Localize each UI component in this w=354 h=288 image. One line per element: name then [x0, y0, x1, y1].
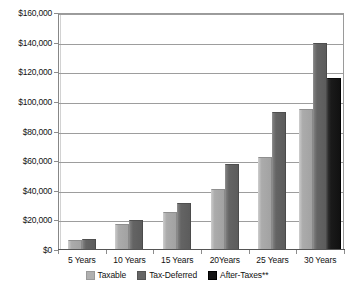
bar-taxable	[258, 157, 272, 250]
legend-swatch-icon	[208, 271, 217, 280]
bar-group	[201, 13, 249, 250]
bar-taxable	[299, 109, 313, 250]
legend-label: Taxable	[98, 270, 127, 280]
y-axis-tick-label: $60,000	[23, 157, 52, 166]
legend-entry[interactable]: After-Taxes**	[208, 270, 268, 280]
y-axis: $0$20,000$40,000$60,000$80,000$100,000$1…	[0, 0, 56, 288]
x-axis-tick-mark	[153, 250, 154, 254]
legend-swatch-icon	[137, 271, 146, 280]
y-axis-tick-label: $160,000	[18, 9, 52, 18]
y-axis-tick-label: $100,000	[18, 97, 52, 106]
bar-taxable	[115, 224, 129, 250]
chart-legend: TaxableTax-DeferredAfter-Taxes**	[0, 268, 354, 282]
x-axis-tick-label: 15 Years	[161, 255, 193, 266]
y-axis-tick-label: $20,000	[23, 216, 52, 225]
y-axis-tick-label: $80,000	[23, 127, 52, 136]
bar-group	[106, 13, 154, 250]
bar-tax-deferred	[313, 43, 327, 250]
bars-layer	[58, 13, 344, 250]
bar-taxable	[211, 189, 225, 250]
x-axis-tick-mark	[58, 250, 59, 254]
x-axis-tick-mark	[249, 250, 250, 254]
x-axis-tick-mark	[296, 250, 297, 254]
bar-group	[296, 13, 344, 250]
bar-group	[249, 13, 297, 250]
legend-label: After-Taxes**	[220, 270, 268, 280]
legend-entry[interactable]: Taxable	[86, 270, 127, 280]
bar-chart-figure: $0$20,000$40,000$60,000$80,000$100,000$1…	[0, 0, 354, 288]
x-axis-tick-label: 30 Years	[304, 255, 336, 266]
x-axis-tick-mark	[106, 250, 107, 254]
x-axis: 5 Years10 Years15 Years20Years25 Years30…	[58, 255, 345, 268]
y-axis-tick-label: $120,000	[18, 68, 52, 77]
bar-tax-deferred	[225, 164, 239, 250]
y-axis-tick-label: $0	[43, 246, 52, 255]
bar-group	[58, 13, 106, 250]
bar-tax-deferred	[177, 203, 191, 250]
y-axis-tick-label: $140,000	[18, 38, 52, 47]
bar-group	[153, 13, 201, 250]
legend-label: Tax-Deferred	[149, 270, 197, 280]
x-axis-tick-mark	[201, 250, 202, 254]
x-axis-tick-label: 20Years	[210, 255, 240, 266]
y-axis-tick-label: $40,000	[23, 186, 52, 195]
bar-taxable	[163, 212, 177, 251]
legend-swatch-icon	[86, 271, 95, 280]
x-axis-tick-label: 5 Years	[68, 255, 96, 266]
x-axis-tick-mark	[344, 250, 345, 254]
x-axis-tick-label: 25 Years	[256, 255, 288, 266]
bar-tax-deferred	[129, 220, 143, 250]
x-axis-tick-label: 10 Years	[113, 255, 145, 266]
bar-tax-deferred	[272, 112, 286, 250]
legend-entry[interactable]: Tax-Deferred	[137, 270, 197, 280]
bar-after-taxes	[327, 78, 341, 250]
